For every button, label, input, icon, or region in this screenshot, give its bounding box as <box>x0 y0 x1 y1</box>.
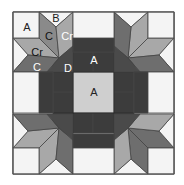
octagon-arm-left <box>39 72 53 113</box>
label-B: B <box>52 12 59 24</box>
label-C-top: C <box>45 30 53 42</box>
label-D: D <box>64 62 72 74</box>
octagon-arm-top <box>73 38 114 52</box>
octagon-arm-right <box>134 72 148 113</box>
label-A-top-center: A <box>90 54 98 66</box>
quilt-block-diagram: A B C Cr Cr C D A A <box>0 0 184 185</box>
star-bottom-right <box>114 114 174 174</box>
octagon-arm-bottom <box>73 134 114 148</box>
star-bottom-left <box>13 114 73 174</box>
label-A-corner: A <box>23 21 31 33</box>
label-Cr-top: Cr <box>61 30 73 42</box>
label-A-center: A <box>90 86 98 98</box>
label-C-left: C <box>33 61 41 73</box>
star-top-right <box>114 12 174 72</box>
label-Cr-left: Cr <box>31 46 43 58</box>
